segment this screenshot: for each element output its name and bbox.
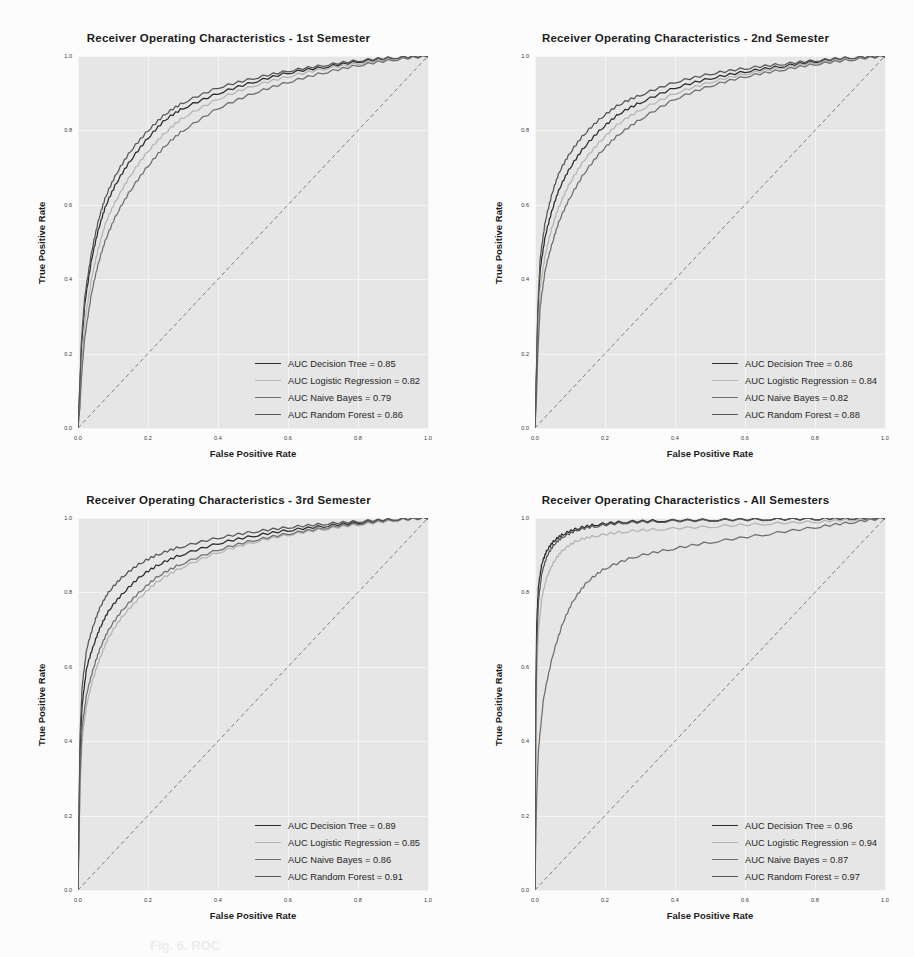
legend-item[interactable]: AUC Logistic Regression = 0.94	[712, 837, 877, 848]
y-tick-label: 0.4	[509, 276, 529, 282]
x-tick-label: 0.0	[531, 897, 539, 903]
gridline-horizontal	[535, 890, 885, 891]
legend-item-label: AUC Random Forest = 0.86	[288, 410, 403, 420]
legend: AUC Decision Tree = 0.89AUC Logistic Reg…	[255, 820, 420, 882]
legend-item-label: AUC Naive Bayes = 0.87	[745, 855, 848, 865]
x-tick-label: 0.2	[144, 435, 152, 441]
legend-item[interactable]: AUC Naive Bayes = 0.82	[712, 392, 877, 403]
legend-item-label: AUC Logistic Regression = 0.84	[745, 376, 877, 386]
legend-item-label: AUC Logistic Regression = 0.85	[288, 838, 420, 848]
legend-line-swatch	[255, 859, 281, 860]
legend: AUC Decision Tree = 0.86AUC Logistic Reg…	[712, 358, 877, 420]
y-tick-label: 0.0	[509, 887, 529, 893]
y-tick-label: 0.6	[509, 664, 529, 670]
legend-item[interactable]: AUC Naive Bayes = 0.87	[712, 854, 877, 865]
x-tick-label: 0.0	[531, 435, 539, 441]
roc-panel-3: Receiver Operating Characteristics - 3rd…	[0, 482, 457, 952]
legend-line-swatch	[255, 825, 281, 826]
legend-line-swatch	[712, 859, 738, 860]
x-tick-label: 0.2	[601, 897, 609, 903]
legend-item-label: AUC Naive Bayes = 0.86	[288, 855, 391, 865]
roc-panel-1: Receiver Operating Characteristics - 1st…	[0, 20, 457, 490]
x-tick-label: 0.4	[214, 897, 222, 903]
y-tick-label: 0.4	[509, 738, 529, 744]
y-tick-label: 0.8	[509, 589, 529, 595]
legend-line-swatch	[255, 842, 281, 843]
legend-line-swatch	[255, 397, 281, 398]
gridline-vertical	[428, 518, 429, 890]
x-axis-label: False Positive Rate	[78, 448, 428, 459]
y-tick-label: 0.8	[509, 127, 529, 133]
x-tick-label: 0.2	[601, 435, 609, 441]
legend-item-label: AUC Naive Bayes = 0.79	[288, 393, 391, 403]
legend-item-label: AUC Decision Tree = 0.89	[288, 821, 396, 831]
y-tick-label: 0.6	[52, 202, 72, 208]
x-tick-label: 0.6	[741, 897, 749, 903]
legend-item[interactable]: AUC Naive Bayes = 0.79	[255, 392, 420, 403]
figure-caption: Fig. 6. ROC	[150, 938, 220, 953]
x-tick-label: 0.8	[811, 435, 819, 441]
gridline-horizontal	[78, 890, 428, 891]
x-tick-label: 0.2	[144, 897, 152, 903]
legend-line-swatch	[255, 876, 281, 877]
plot-area: AUC Decision Tree = 0.89AUC Logistic Reg…	[78, 518, 428, 890]
legend-item[interactable]: AUC Decision Tree = 0.85	[255, 358, 420, 369]
legend-item[interactable]: AUC Logistic Regression = 0.84	[712, 375, 877, 386]
figure-page: Receiver Operating Characteristics - 1st…	[0, 0, 914, 957]
x-axis-label: False Positive Rate	[535, 910, 885, 921]
x-tick-label: 0.6	[741, 435, 749, 441]
legend-item[interactable]: AUC Logistic Regression = 0.82	[255, 375, 420, 386]
legend-item[interactable]: AUC Random Forest = 0.97	[712, 871, 877, 882]
y-tick-label: 0.2	[509, 351, 529, 357]
x-tick-label: 0.6	[284, 897, 292, 903]
y-axis-label: True Positive Rate	[36, 664, 47, 746]
panel-title: Receiver Operating Characteristics - 3rd…	[0, 494, 457, 506]
y-tick-label: 0.0	[509, 425, 529, 431]
plot-area: AUC Decision Tree = 0.96AUC Logistic Reg…	[535, 518, 885, 890]
x-tick-label: 0.0	[74, 897, 82, 903]
legend-item[interactable]: AUC Decision Tree = 0.96	[712, 820, 877, 831]
plot-area: AUC Decision Tree = 0.85AUC Logistic Reg…	[78, 56, 428, 428]
x-tick-label: 0.0	[74, 435, 82, 441]
gridline-vertical	[885, 56, 886, 428]
x-tick-label: 1.0	[881, 897, 889, 903]
x-tick-label: 0.4	[671, 435, 679, 441]
legend-item[interactable]: AUC Random Forest = 0.91	[255, 871, 420, 882]
y-axis-label: True Positive Rate	[493, 664, 504, 746]
roc-panel-grid: Receiver Operating Characteristics - 1st…	[0, 0, 914, 957]
plot-area: AUC Decision Tree = 0.86AUC Logistic Reg…	[535, 56, 885, 428]
legend-line-swatch	[712, 876, 738, 877]
roc-panel-4: Receiver Operating Characteristics - All…	[457, 482, 914, 952]
y-axis-label: True Positive Rate	[36, 202, 47, 284]
y-tick-label: 0.2	[52, 813, 72, 819]
legend-item-label: AUC Decision Tree = 0.85	[288, 359, 396, 369]
legend-item[interactable]: AUC Naive Bayes = 0.86	[255, 854, 420, 865]
legend-item-label: AUC Random Forest = 0.91	[288, 872, 403, 882]
legend-line-swatch	[712, 825, 738, 826]
y-tick-label: 0.4	[52, 738, 72, 744]
x-axis-label: False Positive Rate	[535, 448, 885, 459]
gridline-vertical	[428, 56, 429, 428]
legend-item[interactable]: AUC Decision Tree = 0.89	[255, 820, 420, 831]
panel-title: Receiver Operating Characteristics - 1st…	[0, 32, 457, 44]
panel-title: Receiver Operating Characteristics - All…	[457, 494, 914, 506]
x-tick-label: 1.0	[881, 435, 889, 441]
roc-panel-2: Receiver Operating Characteristics - 2nd…	[457, 20, 914, 490]
x-tick-label: 0.8	[354, 897, 362, 903]
legend-item-label: AUC Naive Bayes = 0.82	[745, 393, 848, 403]
legend-item[interactable]: AUC Random Forest = 0.86	[255, 409, 420, 420]
legend-line-swatch	[712, 842, 738, 843]
y-tick-label: 0.8	[52, 589, 72, 595]
y-tick-label: 1.0	[52, 53, 72, 59]
legend-item[interactable]: AUC Decision Tree = 0.86	[712, 358, 877, 369]
legend-item[interactable]: AUC Logistic Regression = 0.85	[255, 837, 420, 848]
gridline-horizontal	[535, 428, 885, 429]
x-tick-label: 0.4	[214, 435, 222, 441]
x-tick-label: 0.8	[354, 435, 362, 441]
y-tick-label: 1.0	[509, 53, 529, 59]
y-tick-label: 0.6	[52, 664, 72, 670]
legend-item[interactable]: AUC Random Forest = 0.88	[712, 409, 877, 420]
legend-item-label: AUC Logistic Regression = 0.94	[745, 838, 877, 848]
y-axis-label: True Positive Rate	[493, 202, 504, 284]
x-tick-label: 1.0	[424, 435, 432, 441]
